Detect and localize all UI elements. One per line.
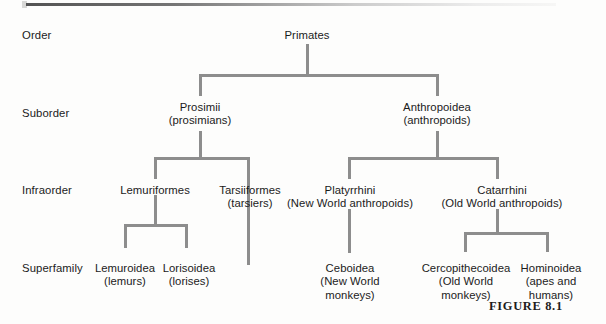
taxon-catarrhini: Catarrhini(Old World anthropoids) (442, 184, 563, 211)
platyrrhini-drop (348, 157, 351, 179)
catarrhini-stem (496, 209, 499, 232)
prosimii-crossbar (154, 157, 250, 160)
cercopithecoidea-drop (464, 232, 467, 252)
figure-caption: FIGURE 8.1 (489, 299, 563, 314)
taxon-lorisoidea: Lorisoidea(lorises) (163, 262, 216, 289)
taxon-lemuriformes-line-1: Lemuriformes (120, 184, 190, 197)
taxon-ceboidea-line-3: monkeys) (320, 289, 379, 302)
rank-label-infraorder: Infraorder (22, 184, 72, 196)
taxon-hominoidea-line-2: (apes and (521, 275, 582, 288)
taxon-ceboidea: Ceboidea(New Worldmonkeys) (320, 262, 379, 302)
taxon-anthropoidea-line-1: Anthropoidea (403, 101, 471, 114)
taxon-catarrhini-line-2: (Old World anthropoids) (442, 197, 563, 210)
taxon-lorisoidea-line-2: (lorises) (163, 275, 216, 288)
page-top-rule (26, 3, 556, 6)
taxon-anthropoidea: Anthropoidea(anthropoids) (403, 101, 471, 128)
anthropoidea-crossbar (348, 157, 499, 160)
taxon-lemuroidea-line-2: (lemurs) (95, 275, 155, 288)
lemuriformes-stem (154, 195, 157, 224)
catarrhini-crossbar (464, 232, 549, 235)
rank-label-suborder: Suborder (22, 107, 69, 119)
taxon-tarsiiformes: Tarsiiformes(tarsiers) (219, 184, 281, 211)
prosimii-stem (199, 131, 202, 157)
taxon-ceboidea-line-1: Ceboidea (320, 262, 379, 275)
taxon-prosimii-line-1: Prosimii (169, 101, 232, 114)
taxon-catarrhini-line-1: Catarrhini (442, 184, 563, 197)
tarsiiformes-drop (247, 157, 250, 265)
taxon-platyrrhini: Platyrrhini(New World anthropoids) (287, 184, 413, 211)
lemuroidea-drop (124, 224, 127, 248)
taxon-platyrrhini-line-1: Platyrrhini (287, 184, 413, 197)
platyrrhini-to-ceboidea (348, 209, 351, 253)
taxon-tarsiiformes-line-2: (tarsiers) (219, 197, 281, 210)
lorisoidea-drop (185, 224, 188, 248)
prosimii-drop (199, 74, 202, 96)
taxon-platyrrhini-line-2: (New World anthropoids) (287, 197, 413, 210)
taxon-hominoidea-line-1: Hominoidea (521, 262, 582, 275)
taxon-lemuroidea: Lemuroidea(lemurs) (95, 262, 155, 289)
taxon-lemuroidea-line-1: Lemuroidea (95, 262, 155, 275)
order-crossbar (199, 74, 439, 77)
taxon-primates: Primates (285, 29, 330, 42)
taxon-hominoidea: Hominoidea(apes andhumans) (521, 262, 582, 302)
taxon-anthropoidea-line-2: (anthropoids) (403, 114, 471, 127)
hominoidea-drop (546, 232, 549, 252)
taxon-prosimii-line-2: (prosimians) (169, 114, 232, 127)
anthropoidea-stem (436, 131, 439, 157)
rank-label-superfamily: Superfamily (22, 262, 83, 274)
rank-label-order: Order (22, 29, 51, 41)
taxon-prosimii: Prosimii(prosimians) (169, 101, 232, 128)
taxon-cercopithecoidea-line-1: Cercopithecoidea (422, 262, 511, 275)
taxon-cercopithecoidea-line-2: (Old World (422, 275, 511, 288)
taxon-cercopithecoidea: Cercopithecoidea(Old Worldmonkeys) (422, 262, 511, 302)
taxon-tarsiiformes-line-1: Tarsiiformes (219, 184, 281, 197)
primate-taxonomy-figure: OrderSuborderInfraorderSuperfamily Prima… (0, 0, 606, 324)
taxon-lemuriformes: Lemuriformes (120, 184, 190, 197)
lemuriformes-drop (154, 157, 157, 179)
taxon-lorisoidea-line-1: Lorisoidea (163, 262, 216, 275)
catarrhini-drop (496, 157, 499, 179)
primates-stem (306, 44, 309, 74)
lemuriformes-crossbar (124, 224, 188, 227)
taxon-primates-line-1: Primates (285, 29, 330, 42)
taxon-ceboidea-line-2: (New World (320, 275, 379, 288)
anthropoidea-drop (436, 74, 439, 96)
